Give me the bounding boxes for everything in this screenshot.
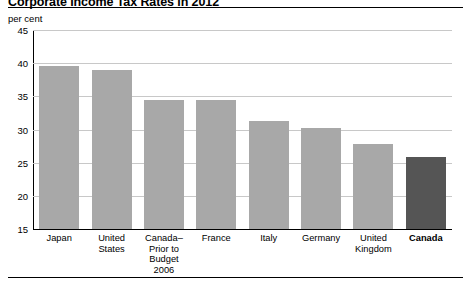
bar: [249, 121, 289, 229]
y-axis-unit-label: per cent: [8, 13, 42, 24]
bottom-divider: [8, 277, 463, 278]
chart-title: Corporate Income Tax Rates in 2012: [8, 0, 219, 9]
y-axis-tick-label: 25: [4, 157, 28, 168]
x-axis-label: France: [190, 233, 242, 244]
x-axis-label: Canada: [400, 233, 452, 244]
chart-container: Corporate Income Tax Rates in 2012 per c…: [0, 0, 471, 283]
bar: [39, 66, 79, 229]
bar-series: [33, 30, 452, 229]
bar: [92, 70, 132, 229]
y-axis-tick-label: 35: [4, 91, 28, 102]
x-axis-label: Germany: [295, 233, 347, 244]
gridline: [33, 229, 452, 230]
bar: [301, 128, 341, 229]
x-axis-category-labels: JapanUnitedStatesCanada–Prior toBudget20…: [33, 233, 452, 281]
plot-area: 15202530354045: [33, 30, 452, 229]
bar: [353, 144, 393, 229]
x-axis-label: UnitedKingdom: [347, 233, 399, 254]
y-axis-tick-label: 45: [4, 25, 28, 36]
y-axis-tick-label: 30: [4, 124, 28, 135]
bar: [144, 100, 184, 229]
y-axis-tick-label: 15: [4, 224, 28, 235]
x-axis-label: Italy: [243, 233, 295, 244]
x-axis-label: Japan: [33, 233, 85, 244]
bar: [196, 100, 236, 229]
x-axis-label: Canada–Prior toBudget2006: [138, 233, 190, 275]
x-axis-label: UnitedStates: [85, 233, 137, 254]
y-axis-tick-label: 20: [4, 190, 28, 201]
y-axis-tick-label: 40: [4, 58, 28, 69]
bar: [406, 157, 446, 229]
